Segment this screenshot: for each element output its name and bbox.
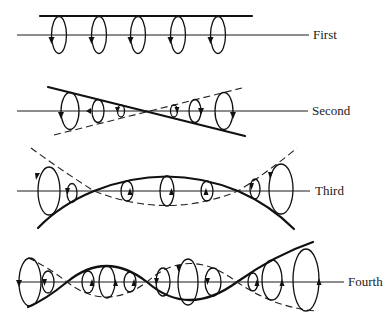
envelope-solid-fourth: [28, 242, 313, 307]
arrow-left-icon: [86, 108, 91, 114]
loop: [293, 249, 319, 311]
diagram-canvas: [0, 0, 392, 327]
arrow-down-icon: [128, 37, 134, 44]
arrow-down-icon: [89, 37, 95, 44]
label-second: Second: [312, 104, 350, 117]
arrow-down-icon: [49, 37, 55, 44]
loop: [269, 164, 293, 214]
arrow-down-icon: [208, 37, 214, 44]
loops-third: [35, 164, 293, 215]
label-third: Third: [315, 184, 344, 197]
arrow-down-icon: [58, 112, 64, 119]
mode-shapes-diagram: First Second Third Fourth: [0, 0, 392, 327]
label-fourth: Fourth: [348, 275, 383, 288]
arrow-down-icon: [168, 37, 174, 44]
row-fourth: [16, 242, 344, 311]
envelope-solid-third: [38, 177, 294, 230]
row-first: [17, 16, 309, 54]
arrow-down-icon: [16, 280, 22, 287]
row-third: [17, 148, 310, 229]
row-second: [17, 87, 308, 136]
label-first: First: [313, 28, 337, 41]
loop: [262, 260, 282, 300]
arrow-down-icon: [230, 112, 236, 119]
envelope-dashed-fourth: [28, 258, 317, 311]
loop: [67, 184, 77, 203]
arrow-down-icon: [175, 107, 180, 113]
arrow-down-icon: [115, 107, 120, 113]
